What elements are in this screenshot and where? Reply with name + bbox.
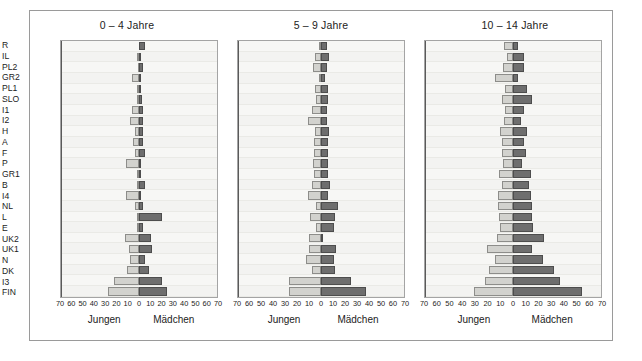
bar-boys	[504, 117, 513, 125]
x-tick-label: 60	[67, 299, 75, 308]
category-label: IL	[1, 51, 29, 62]
bar-row	[238, 41, 404, 52]
plot-area	[424, 40, 602, 298]
bar-row	[238, 180, 404, 191]
bar-row	[238, 190, 404, 201]
axis-captions: Jungen Mädchen	[424, 314, 602, 330]
bar-girls	[321, 213, 335, 221]
bar-boys	[503, 159, 513, 167]
x-tick-label: 60	[203, 299, 211, 308]
bar-row	[425, 148, 601, 159]
category-label: PL1	[1, 83, 29, 94]
bar-girls	[139, 255, 145, 263]
category-label: FIN	[1, 287, 29, 298]
x-tick-label: 70	[598, 299, 606, 308]
bar-row	[61, 126, 217, 137]
category-label: H	[1, 126, 29, 137]
bar-girls	[321, 95, 328, 103]
x-tick-label: 20	[483, 299, 491, 308]
bar-row	[61, 190, 217, 201]
bar-row	[238, 105, 404, 116]
bar-girls	[321, 287, 366, 295]
bar-row	[425, 275, 601, 286]
bar-girls	[321, 127, 329, 135]
x-tick-label: 10	[124, 299, 132, 308]
panel-row: 0 – 4 Jahre RILPL2GR2PL1SLOI1I2HAFPGR1BI…	[30, 11, 612, 340]
bar-row	[238, 169, 404, 180]
bar-boys	[500, 127, 513, 135]
bar-girls	[321, 74, 325, 82]
bar-row	[238, 116, 404, 127]
caption-girls: Mädchen	[532, 314, 573, 325]
bar-girls	[321, 159, 328, 167]
category-label: E	[1, 223, 29, 234]
x-tick-label: 50	[377, 299, 385, 308]
bar-girls	[513, 255, 543, 263]
bar-row	[238, 254, 404, 265]
x-tick-label: 30	[281, 299, 289, 308]
x-tick-label: 60	[433, 299, 441, 308]
bar-boys	[126, 159, 139, 167]
bar-girls	[139, 106, 143, 114]
bar-girls	[321, 85, 328, 93]
bar-row	[238, 286, 404, 297]
bar-row	[425, 169, 601, 180]
bar-boys	[314, 149, 321, 157]
bar-girls	[321, 138, 328, 146]
bar-girls	[321, 149, 328, 157]
bar-girls	[513, 245, 532, 253]
category-label: F	[1, 148, 29, 159]
x-tick-label: 40	[365, 299, 373, 308]
x-tick-label: 30	[101, 299, 109, 308]
category-label: N	[1, 255, 29, 266]
bar-row	[425, 222, 601, 233]
category-label: UK1	[1, 244, 29, 255]
bar-row	[425, 105, 601, 116]
bar-row	[238, 233, 404, 244]
bar-girls	[321, 277, 351, 285]
bar-girls	[321, 234, 323, 242]
bar-boys	[499, 213, 513, 221]
x-tick-label: 70	[420, 299, 428, 308]
bar-row	[425, 265, 601, 276]
bar-girls	[139, 117, 143, 125]
caption-boys: Jungen	[457, 314, 490, 325]
caption-girls: Mädchen	[153, 314, 194, 325]
x-tick-label: 20	[534, 299, 542, 308]
x-tick-label: 40	[269, 299, 277, 308]
category-label: NL	[1, 201, 29, 212]
bar-girls	[139, 234, 151, 242]
bar-row	[61, 222, 217, 233]
bar-row	[61, 73, 217, 84]
bar-rows	[425, 41, 601, 297]
x-tick-label: 50	[445, 299, 453, 308]
bar-boys	[308, 117, 321, 125]
x-tick-label: 20	[341, 299, 349, 308]
bar-row	[425, 254, 601, 265]
category-label: I1	[1, 105, 29, 116]
bar-row	[238, 84, 404, 95]
bar-girls	[513, 106, 524, 114]
bar-boys	[314, 138, 321, 146]
bar-boys	[308, 191, 321, 199]
bar-row	[238, 126, 404, 137]
bar-boys	[130, 255, 139, 263]
bar-row	[238, 137, 404, 148]
category-label: P	[1, 158, 29, 169]
bar-row	[61, 52, 217, 63]
bar-row	[61, 148, 217, 159]
bar-girls	[513, 266, 554, 274]
bar-row	[425, 52, 601, 63]
bar-girls	[513, 53, 524, 61]
bar-girls	[321, 181, 330, 189]
bar-girls	[139, 181, 145, 189]
bar-row	[425, 94, 601, 105]
value-axis: 70605040302010010203040506070	[60, 299, 218, 311]
x-tick-label: 20	[112, 299, 120, 308]
bar-girls	[139, 266, 149, 274]
bar-boys	[309, 245, 321, 253]
bar-boys	[474, 287, 513, 295]
bar-boys	[313, 63, 321, 71]
x-tick-label: 60	[245, 299, 253, 308]
bar-row	[238, 94, 404, 105]
